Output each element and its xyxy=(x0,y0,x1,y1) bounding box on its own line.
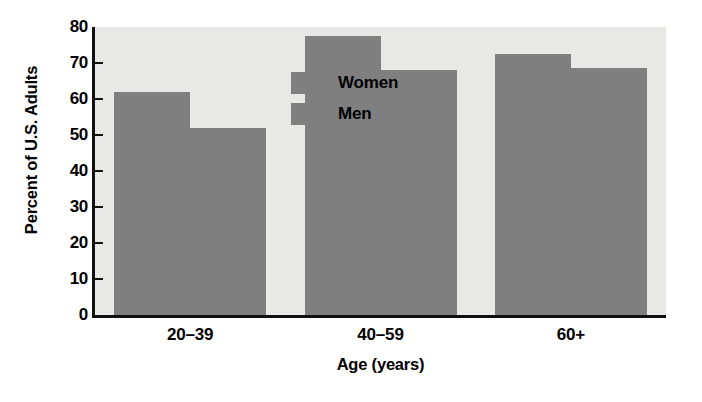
x-axis-title: Age (years) xyxy=(95,355,666,374)
legend-item-women: Women xyxy=(291,67,441,98)
y-axis-tick-label: 50 xyxy=(46,125,88,145)
y-axis-tick-label: 60 xyxy=(46,89,88,109)
y-axis-tick-mark xyxy=(92,134,103,136)
x-axis-tick-label: 40–59 xyxy=(311,325,451,345)
y-axis-tick-mark xyxy=(92,206,103,208)
legend-swatch-men-icon xyxy=(291,103,325,125)
legend-label-women: Women xyxy=(338,73,398,93)
y-axis-tick-label: 20 xyxy=(46,233,88,253)
y-axis-tick-label: 0 xyxy=(46,305,88,325)
y-axis-tick-mark xyxy=(92,98,103,100)
y-axis-tick-mark xyxy=(92,278,103,280)
bar-women-2 xyxy=(495,54,571,315)
x-axis-line xyxy=(92,315,666,318)
legend: Women Men xyxy=(291,67,441,129)
y-axis-tick-label: 10 xyxy=(46,269,88,289)
y-axis-tick-mark xyxy=(92,170,103,172)
bar-men-2 xyxy=(571,68,647,315)
y-axis-title: Percent of U.S. Adults xyxy=(14,0,48,300)
y-axis-tick-mark xyxy=(92,242,103,244)
y-axis-tick-label: 70 xyxy=(46,53,88,73)
x-axis-tick-labels: 20–3940–5960+ xyxy=(95,325,666,351)
y-axis-tick-mark xyxy=(92,62,103,64)
y-axis-tick-label: 30 xyxy=(46,197,88,217)
x-axis-tick-label: 20–39 xyxy=(120,325,260,345)
bar-chart: Percent of U.S. Adults 01020304050607080… xyxy=(0,0,702,402)
legend-item-men: Men xyxy=(291,98,441,129)
legend-label-men: Men xyxy=(338,104,371,124)
bar-women-0 xyxy=(114,92,190,315)
y-axis-tick-label: 40 xyxy=(46,161,88,181)
legend-swatch-women-icon xyxy=(291,72,325,94)
y-axis-tick-labels: 01020304050607080 xyxy=(46,27,88,315)
x-axis-tick-label: 60+ xyxy=(501,325,641,345)
y-axis-tick-label: 80 xyxy=(46,17,88,37)
plot-area: Women Men xyxy=(95,27,666,315)
bar-men-0 xyxy=(190,128,266,315)
